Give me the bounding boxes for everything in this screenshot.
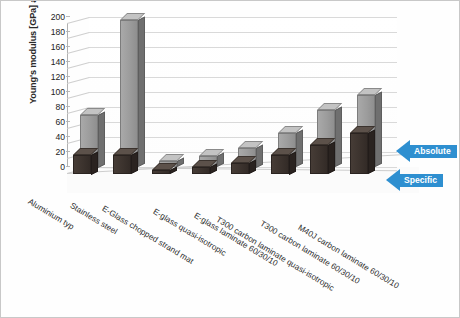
bar-specific (113, 155, 131, 174)
x-axis-label: T300 carbon laminate quasi-isotropic (214, 215, 335, 293)
chart-container: Young's modulus [GPa] and [GPa/(t/m^3)] … (0, 0, 460, 318)
bar-side-face (328, 141, 335, 174)
bar-front-face (271, 155, 289, 175)
bar-side-face (256, 144, 263, 167)
y-tick-label: 40 (27, 133, 65, 141)
arrow-left-icon (386, 169, 400, 191)
bar-specific (73, 155, 91, 175)
bar-specific (152, 170, 170, 174)
callout-specific-body: Specific (400, 174, 443, 187)
x-axis-label: Aluminium typ (26, 197, 75, 232)
y-tick-label: 80 (27, 103, 65, 111)
y-tick-label: 20 (27, 148, 65, 156)
bar-absolute (120, 20, 138, 167)
bar-specific (231, 163, 249, 174)
callout-specific-label: Specific (404, 174, 437, 187)
callout-specific: Specific (386, 169, 443, 191)
bar-side-face (91, 151, 98, 174)
y-tick-label: 180 (27, 28, 65, 36)
bar-side-face (335, 106, 342, 167)
bar-front-face (192, 167, 210, 174)
y-tick-label: 160 (27, 43, 65, 51)
bar-side-face (296, 130, 303, 167)
gridline-depth-edge (67, 32, 89, 39)
gridline-depth-edge (67, 62, 89, 69)
y-axis-tick-labels: 200180160140120100806040200 (27, 23, 65, 179)
gridline-depth-edge (67, 77, 89, 84)
gridline-depth-edge (67, 47, 89, 54)
bar-side-face (368, 129, 375, 174)
x-axis-label: E-Glass chopped strand mat (100, 204, 195, 266)
x-axis-label: E-glass laminate 60/30/10 (192, 211, 279, 268)
arrow-left-icon (396, 140, 410, 162)
y-tick-label: 140 (27, 58, 65, 66)
bar-specific (310, 145, 328, 174)
y-tick-label: 100 (27, 88, 65, 96)
y-tick-label: 200 (27, 13, 65, 21)
bar-front-face (152, 170, 170, 174)
gridline-depth-edge (67, 17, 89, 24)
callout-absolute-body: Absolute (410, 145, 457, 158)
callout-absolute-label: Absolute (414, 145, 451, 158)
bar-front-face (231, 163, 249, 174)
bar-front-face (120, 20, 138, 167)
callout-absolute: Absolute (396, 140, 457, 162)
bar-specific (192, 167, 210, 174)
bar-side-face (98, 111, 105, 167)
bar-specific (271, 155, 289, 175)
y-tick-label: 0 (27, 163, 65, 171)
x-axis-label: T300 carbon laminate 60/30/10 (258, 219, 361, 286)
y-tick-label: 120 (27, 73, 65, 81)
y-tick-label: 60 (27, 118, 65, 126)
bar-side-face (131, 152, 138, 174)
bar-front-face (310, 145, 328, 174)
gridline-depth-edge (67, 92, 89, 99)
x-axis-label: E-glass quasi-isotropic (151, 207, 227, 258)
y-tick-mark (66, 16, 70, 17)
bar-front-face (350, 133, 368, 174)
bar-side-face (138, 16, 145, 167)
bar-front-face (73, 155, 91, 175)
bar-front-face (113, 155, 131, 174)
bar-side-face (375, 91, 382, 167)
plot-area (67, 23, 397, 179)
x-axis-label: Stainless steel (68, 201, 119, 236)
x-axis-label: M40J carbon laminate 60/30/10 (296, 223, 400, 291)
bar-specific (350, 133, 368, 174)
